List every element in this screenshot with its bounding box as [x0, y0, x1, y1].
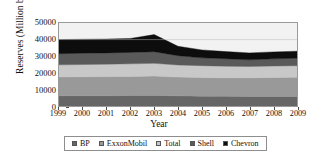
legend-swatch-icon [190, 141, 195, 146]
legend-swatch-icon [223, 141, 228, 146]
x-tick-mark [226, 107, 227, 110]
legend-swatch-icon [156, 141, 161, 146]
x-tick-mark [178, 107, 179, 110]
legend-label: BP [80, 140, 90, 148]
legend-swatch-icon [72, 141, 77, 146]
legend-label: ExxonMobil [107, 140, 147, 148]
x-tick-mark [82, 107, 83, 110]
legend-item-total[interactable]: Total [156, 140, 180, 148]
legend-item-shell[interactable]: Shell [190, 140, 214, 148]
x-tick-mark [58, 107, 59, 110]
legend-label: Total [164, 140, 180, 148]
x-tick-mark [274, 107, 275, 110]
legend-label: Shell [198, 140, 214, 148]
stacked-area-chart: Reserves (Million barrels) 0100002000030… [0, 0, 318, 162]
x-axis-title: Year [0, 119, 318, 129]
x-tick-mark [154, 107, 155, 110]
x-tick-mark [298, 107, 299, 110]
x-tick-mark [106, 107, 107, 110]
legend-swatch-icon [99, 141, 104, 146]
x-tick-mark [250, 107, 251, 110]
legend-item-bp[interactable]: BP [72, 140, 90, 148]
x-tick-mark [130, 107, 131, 110]
x-tick-mark [202, 107, 203, 110]
legend-item-exxonmobil[interactable]: ExxonMobil [99, 140, 147, 148]
legend-item-chevron[interactable]: Chevron [223, 140, 259, 148]
legend-label: Chevron [231, 140, 259, 148]
chart-legend: BPExxonMobilTotalShellChevron [64, 136, 267, 151]
x-tick-label: 2009 [283, 109, 313, 118]
